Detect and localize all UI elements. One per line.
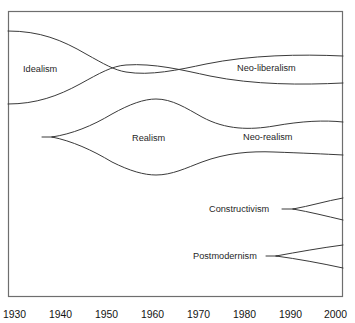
label-idealism: Idealism (23, 64, 58, 74)
label-realism: Realism (132, 133, 166, 143)
x-tick-label-1970: 1970 (187, 309, 210, 320)
label-neo-liberalism: Neo-liberalism (237, 63, 296, 73)
theory-streams-figure: Idealism Neo-liberalism Realism Neo-real… (0, 0, 355, 323)
x-tick-label-1940: 1940 (49, 309, 72, 320)
label-postmodernism: Postmodernism (193, 251, 257, 261)
cropped-top-caption (8, 0, 348, 1)
stream-chart-svg: Idealism Neo-liberalism Realism Neo-real… (0, 0, 355, 323)
x-tick-label-1950: 1950 (95, 309, 118, 320)
plot-frame (9, 12, 343, 297)
x-tick-label-1980: 1980 (233, 309, 256, 320)
x-tick-label-1930: 1930 (3, 309, 26, 320)
label-neo-realism: Neo-realism (243, 132, 293, 142)
x-tick-label-1960: 1960 (141, 309, 164, 320)
x-tick-label-1990: 1990 (279, 309, 302, 320)
label-constructivism: Constructivism (209, 204, 270, 214)
x-tick-label-2000: 2000 (324, 309, 347, 320)
